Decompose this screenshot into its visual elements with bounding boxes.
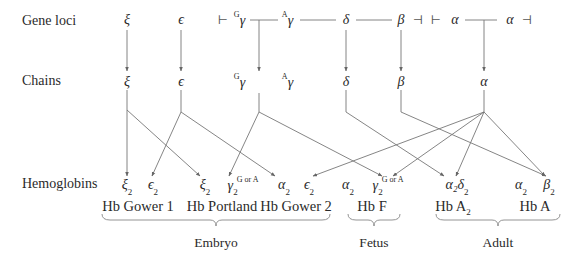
hb-f: Hb F [357, 199, 386, 214]
row-label-gene-loci: Gene loci [22, 14, 76, 28]
locus-G-gamma: Gγ [235, 13, 245, 28]
subunit-alpha2-hba: α2 [515, 178, 527, 195]
subunit-alpha2-hbf: α2 [342, 178, 354, 195]
chain-delta: δ [343, 75, 350, 89]
locus-beta: β [398, 13, 405, 27]
edge-epsilon-gower2 [181, 112, 275, 176]
edge-gamma-hbf [259, 112, 382, 176]
beta-cluster-start-marker: ⊢ [218, 14, 228, 26]
locus-xi: ξ [124, 13, 130, 27]
locus-epsilon: ϵ [178, 13, 184, 27]
hb-portland: Hb Portland [187, 199, 257, 214]
row-label-chains: Chains [22, 74, 61, 88]
subunit-epsilon2-gower2: ϵ2 [304, 178, 314, 195]
edge-xi-portland [127, 110, 200, 176]
edge-alpha-hba [484, 112, 545, 176]
subunit-alpha2-gower2: α2 [278, 178, 290, 195]
locus-alpha-1: α [451, 13, 458, 27]
stage-adult: Adult [483, 236, 514, 250]
edge-alpha-gower2 [313, 112, 484, 176]
hb-a: Hb A [519, 199, 550, 214]
beta-cluster-end-marker: ⊣ [413, 14, 423, 26]
hb-gower-1: Hb Gower 1 [102, 199, 174, 214]
stage-fetus: Fetus [359, 236, 388, 250]
stage-embryo: Embryo [194, 236, 238, 250]
locus-A-gamma: Aγ [283, 13, 293, 28]
chain-G-gamma: Gγ [235, 75, 245, 90]
chain-alpha: α [480, 75, 487, 89]
locus-alpha-2: α [506, 13, 513, 27]
chain-xi: ξ [124, 75, 130, 89]
chain-A-gamma: Aγ [283, 75, 293, 90]
subunit-xi2-gower1: ξ2 [122, 178, 133, 195]
subunit-beta2-hba: β2 [543, 178, 554, 195]
edge-delta-hba2 [346, 112, 444, 176]
chain-epsilon: ϵ [178, 75, 184, 89]
row-label-hemoglobins: Hemoglobins [22, 177, 97, 191]
subunit-gamma2-hbf: γ2G or A [373, 178, 404, 195]
diagram-lines [0, 0, 582, 255]
edge-beta-hba [401, 112, 546, 176]
locus-delta: δ [343, 13, 350, 27]
subunit-xi2-portland: ξ2 [200, 178, 211, 195]
hb-a2: Hb A2 [435, 199, 471, 217]
hemoglobin-diagram: Gene loci Chains Hemoglobins ξ ϵ ⊢ Gγ Aγ… [0, 0, 582, 255]
edge-gamma-portland [229, 112, 259, 176]
brace-embryo [102, 214, 330, 226]
alpha-cluster-end-marker: ⊣ [522, 14, 532, 26]
edge-epsilon-gower1 [152, 112, 181, 176]
chain-beta: β [398, 75, 405, 89]
hb-gower-2: Hb Gower 2 [260, 199, 332, 214]
subunit-epsilon2-gower1: ϵ2 [148, 178, 158, 195]
alpha-cluster-start-marker: ⊢ [431, 14, 441, 26]
subunit-alpha2delta2-hba2: α₂δ2 [445, 178, 468, 195]
brace-fetus [348, 214, 400, 226]
subunit-gamma2-portland: γ2G or A [228, 178, 259, 195]
